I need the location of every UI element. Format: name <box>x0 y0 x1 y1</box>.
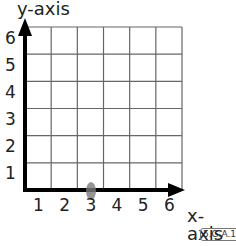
y-tick-label: 1 <box>5 165 16 182</box>
x-tick-label: 4 <box>112 197 123 214</box>
y-tick-label: 4 <box>5 84 16 101</box>
y-tick-label: 3 <box>5 111 16 128</box>
axes <box>18 18 185 197</box>
x-tick-label: 3 <box>85 197 96 214</box>
y-tick-label: 2 <box>5 138 16 155</box>
y-tick-label: 5 <box>5 57 16 74</box>
x-tick-label: 1 <box>33 197 44 214</box>
y-axis-title: y-axis <box>17 0 70 18</box>
grid-lines <box>25 27 182 190</box>
x-tick-label: 5 <box>138 197 149 214</box>
x-tick-label: 6 <box>164 197 175 214</box>
x-tick-label: 2 <box>59 197 70 214</box>
y-tick-label: 6 <box>5 30 16 47</box>
standard-code-badge: 5.G.A.1 <box>200 228 236 241</box>
